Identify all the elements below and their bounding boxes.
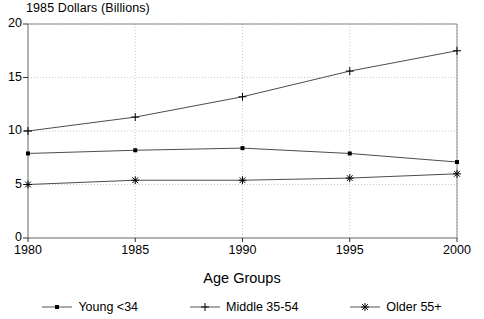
legend-item-2[interactable]: Middle 35-54 [190, 301, 298, 313]
x-axis-title: Age Groups [0, 270, 484, 286]
line-chart: 1985 Dollars (Billions) 05101520 1980198… [0, 0, 484, 319]
x-tick-label: 2000 [434, 243, 480, 257]
legend-label: Older 55+ [386, 301, 441, 313]
legend-label: Middle 35-54 [226, 301, 298, 313]
legend-item-3[interactable]: Older 55+ [350, 301, 441, 313]
legend-marker-dot-icon [42, 301, 72, 313]
marker-dot [55, 305, 59, 309]
legend-marker-asterisk-icon [350, 301, 380, 313]
x-tick-label: 1995 [327, 243, 373, 257]
x-tick-label: 1985 [112, 243, 158, 257]
legend-label: Young <34 [78, 301, 138, 313]
chart-legend: Young <34Middle 35-54Older 55+ [0, 297, 484, 317]
legend-item-1[interactable]: Young <34 [42, 301, 138, 313]
x-tick-label: 1990 [220, 243, 266, 257]
x-tick-label: 1980 [5, 243, 51, 257]
legend-marker-plus-icon [190, 301, 220, 313]
